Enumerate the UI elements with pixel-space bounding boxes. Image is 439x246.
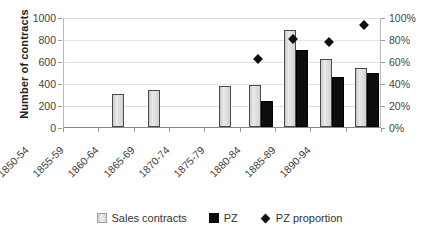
- x-tick-label-1890-94: 1890-94: [277, 144, 313, 180]
- legend-item-pz-proportion[interactable]: PZ proportion: [260, 212, 343, 224]
- x-tick-mark: [134, 128, 135, 132]
- bar-sales-contracts-1875-79: [249, 85, 261, 127]
- y-tick-mark: [58, 18, 62, 19]
- y2-tick-mark: [381, 106, 385, 107]
- legend-item-pz[interactable]: PZ: [209, 212, 238, 224]
- gridline: [64, 62, 380, 63]
- bar-pz-1885-89: [332, 77, 344, 127]
- y-tick-label-600: 600: [22, 57, 56, 67]
- bar-sales-contracts-1855-59: [112, 94, 124, 127]
- marker-pz-proportion-1885-89: [324, 37, 334, 47]
- x-tick-mark: [98, 128, 99, 132]
- y2-tick-mark: [381, 62, 385, 63]
- bar-sales-contracts-1885-89: [320, 59, 332, 127]
- x-tick-label-1870-74: 1870-74: [136, 144, 172, 180]
- bar-sales-contracts-1860-64: [148, 90, 160, 127]
- y2-tick-label-100: 100%: [389, 13, 429, 23]
- bar-sales-contracts-1890-94: [355, 68, 367, 127]
- legend-item-sales-contracts[interactable]: Sales contracts: [97, 212, 187, 224]
- x-tick-mark: [275, 128, 276, 132]
- plot-area: [63, 18, 381, 128]
- x-tick-mark: [381, 128, 382, 132]
- y-tick-label-0: 0: [22, 123, 56, 133]
- y2-tick-label-60: 60%: [389, 57, 429, 67]
- x-axis-ticks: [63, 128, 381, 133]
- x-tick-mark: [169, 128, 170, 132]
- x-tick-label-1875-79: 1875-79: [171, 144, 207, 180]
- x-tick-mark: [310, 128, 311, 132]
- y-tick-mark: [58, 62, 62, 63]
- square-black-icon: [209, 213, 219, 223]
- y-tick-mark: [58, 40, 62, 41]
- y-tick-label-200: 200: [22, 101, 56, 111]
- x-tick-mark: [240, 128, 241, 132]
- legend-label-pz: PZ: [224, 212, 238, 224]
- x-tick-label-1885-89: 1885-89: [242, 144, 278, 180]
- bar-sales-contracts-1870-74: [219, 86, 231, 127]
- x-tick-label-1855-59: 1855-59: [30, 144, 66, 180]
- bar-pz-1890-94: [367, 73, 379, 127]
- bar-sales-contracts-1880-84: [284, 30, 296, 127]
- legend-label-sales-contracts: Sales contracts: [112, 212, 187, 224]
- legend-label-pz-proportion: PZ proportion: [276, 212, 343, 224]
- y-tick-label-800: 800: [22, 35, 56, 45]
- y-tick-mark: [58, 106, 62, 107]
- chart-container: Number of contracts 1000 800 600 400 200…: [0, 0, 439, 246]
- y-tick-mark: [58, 128, 62, 129]
- x-tick-label-1860-64: 1860-64: [65, 144, 101, 180]
- x-tick-label-1865-69: 1865-69: [101, 144, 137, 180]
- x-tick-label-1880-84: 1880-84: [207, 144, 243, 180]
- y2-tick-label-0: 0%: [389, 123, 429, 133]
- y2-tick-mark: [381, 84, 385, 85]
- x-tick-mark: [204, 128, 205, 132]
- y2-tick-label-80: 80%: [389, 35, 429, 45]
- x-tick-mark: [63, 128, 64, 132]
- bar-pz-1875-79: [261, 101, 273, 127]
- bar-pz-1880-84: [296, 50, 308, 127]
- y-tick-label-1000: 1000: [22, 13, 56, 23]
- diamond-black-icon: [260, 213, 270, 223]
- y-tick-mark: [58, 84, 62, 85]
- x-tick-label-1850-54: 1850-54: [0, 144, 31, 180]
- y2-tick-mark: [381, 18, 385, 19]
- y2-tick-label-40: 40%: [389, 79, 429, 89]
- x-tick-mark: [346, 128, 347, 132]
- square-light-gray-icon: [97, 213, 107, 223]
- y-tick-label-400: 400: [22, 79, 56, 89]
- y2-tick-label-20: 20%: [389, 101, 429, 111]
- y2-tick-mark: [381, 40, 385, 41]
- gridline: [64, 18, 380, 19]
- marker-pz-proportion-1890-94: [359, 20, 369, 30]
- chart-legend: Sales contracts PZ PZ proportion: [0, 212, 439, 224]
